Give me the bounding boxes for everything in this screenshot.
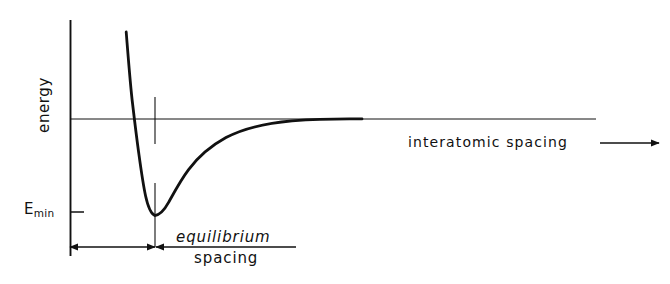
energy-minimum-label: Emin [24, 200, 54, 219]
y-axis-label: energy [35, 65, 53, 145]
figure-canvas: energy Emin equilibrium spacing interato… [0, 0, 670, 284]
x-axis-label: interatomic spacing [408, 134, 568, 150]
equilibrium-caption-bottom: spacing [194, 249, 258, 267]
equilibrium-caption-top: equilibrium [176, 228, 271, 246]
energy-minimum-subscript: min [34, 207, 55, 219]
potential-energy-diagram [0, 0, 670, 284]
energy-minimum-symbol: E [24, 200, 34, 218]
potential-energy-curve [126, 32, 362, 216]
